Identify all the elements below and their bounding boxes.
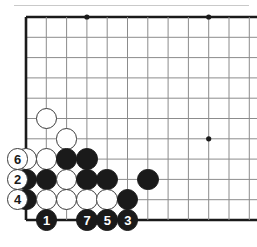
go-diagram-root: 1753624 bbox=[0, 0, 257, 247]
stone-black bbox=[96, 169, 118, 191]
stone-black bbox=[137, 169, 159, 191]
stone-move-5: 5 bbox=[96, 209, 118, 231]
stone-move-number: 3 bbox=[124, 214, 131, 227]
star-point bbox=[206, 136, 211, 141]
go-board: 1753624 bbox=[0, 0, 257, 247]
stone-white bbox=[36, 108, 58, 130]
stone-move-number: 4 bbox=[14, 193, 21, 206]
stone-black bbox=[76, 169, 98, 191]
star-point bbox=[206, 14, 211, 19]
stone-black bbox=[56, 148, 78, 170]
star-point bbox=[84, 14, 89, 19]
stone-move-3: 3 bbox=[117, 209, 139, 231]
stone-move-1: 1 bbox=[36, 209, 58, 231]
stone-move-number: 5 bbox=[104, 214, 111, 227]
stone-move-6: 6 bbox=[7, 148, 29, 170]
stone-white bbox=[56, 128, 78, 150]
stone-move-number: 1 bbox=[43, 214, 50, 227]
stone-move-number: 2 bbox=[14, 173, 21, 186]
stone-white bbox=[76, 189, 98, 211]
stone-black bbox=[36, 169, 58, 191]
stone-move-number: 6 bbox=[14, 153, 21, 166]
stone-move-7: 7 bbox=[76, 209, 98, 231]
stone-white bbox=[36, 148, 58, 170]
stone-black bbox=[76, 148, 98, 170]
stone-move-number: 7 bbox=[84, 214, 91, 227]
